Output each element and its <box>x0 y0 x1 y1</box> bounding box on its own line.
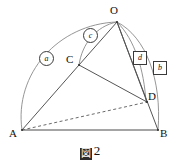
arc-label-d: d <box>133 51 147 65</box>
point-label-A: A <box>9 128 17 139</box>
point-label-D: D <box>148 91 156 102</box>
figure-caption: 図2 <box>0 144 180 160</box>
vertex-O <box>116 21 118 23</box>
geometry-drawing <box>0 0 180 162</box>
segment-AC <box>22 65 79 130</box>
vertex-C <box>78 64 80 66</box>
arc-label-a: a <box>39 51 54 66</box>
segment-AD-dashed <box>22 102 147 130</box>
vertex-B <box>157 129 159 131</box>
arc-label-c: c <box>83 28 98 43</box>
arc-label-b: b <box>153 61 167 75</box>
caption-zu-glyph: 図 <box>80 148 92 160</box>
point-label-B: B <box>160 128 167 139</box>
vertex-A <box>21 129 23 131</box>
segment-CD <box>79 65 147 102</box>
caption-number: 2 <box>94 143 101 158</box>
segment-OB <box>117 22 158 130</box>
point-label-O: O <box>110 5 118 16</box>
point-label-C: C <box>66 54 73 65</box>
figure-container: O C D A B a c d b 図2 <box>0 0 180 162</box>
